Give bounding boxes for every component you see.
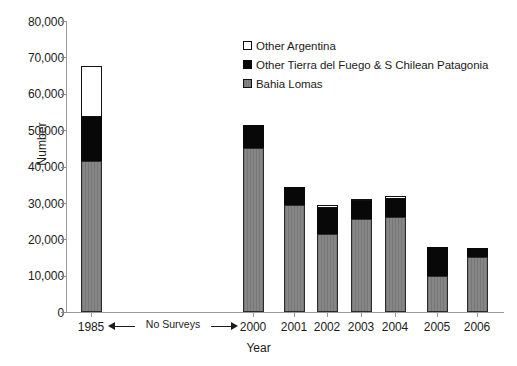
- bar-chart: Number 80,000 70,000 60,000 50,000 40,00…: [0, 0, 517, 366]
- y-tick-label: 20,000: [6, 235, 64, 245]
- bar-segment: [81, 117, 102, 161]
- y-tick-label: 50,000: [6, 126, 64, 136]
- bar-segment: [467, 257, 488, 312]
- x-tick-mark: [477, 313, 478, 317]
- black-square-icon: [243, 60, 252, 69]
- bar-2006: [467, 248, 488, 312]
- bar-segment: [385, 199, 406, 217]
- no-surveys-annotation: No Surveys: [108, 320, 238, 334]
- bar-segment: [243, 148, 264, 312]
- bar-segment: [81, 66, 102, 117]
- bar-segment: [385, 196, 406, 200]
- bar-1985: [81, 66, 102, 312]
- bar-segment: [317, 208, 338, 233]
- x-tick-mark: [327, 313, 328, 317]
- x-tick-mark: [437, 313, 438, 317]
- x-tick-mark: [294, 313, 295, 317]
- bar-segment: [385, 217, 406, 312]
- y-tick-label: 30,000: [6, 199, 64, 209]
- bar-segment: [351, 199, 372, 201]
- x-tick-label: 2000: [233, 320, 273, 334]
- bar-segment: [317, 205, 338, 209]
- x-axis-line: [66, 312, 504, 313]
- bar-2002: [317, 205, 338, 312]
- legend-label: Other Argentina: [256, 40, 336, 52]
- arrow-left-icon: [108, 322, 115, 330]
- bar-2003: [351, 199, 372, 312]
- x-tick-label: 2006: [457, 320, 497, 334]
- legend: Other Argentina Other Tierra del Fuego &…: [243, 36, 488, 93]
- y-axis-ticks: 80,000 70,000 60,000 50,000 40,000 30,00…: [0, 0, 64, 366]
- y-tick-label: 40,000: [6, 162, 64, 172]
- bar-segment: [351, 219, 372, 312]
- x-tick-mark: [361, 313, 362, 317]
- y-tick-label: 0: [6, 308, 64, 318]
- legend-label: Other Tierra del Fuego & S Chilean Patag…: [256, 59, 488, 71]
- bar-segment: [284, 205, 305, 312]
- x-tick-mark: [253, 313, 254, 317]
- bar-2005: [427, 247, 448, 312]
- y-tick-label: 60,000: [6, 89, 64, 99]
- x-tick-label: 2004: [375, 320, 415, 334]
- bar-2001: [284, 187, 305, 312]
- bar-segment: [243, 125, 264, 149]
- bar-segment: [427, 276, 448, 312]
- bar-segment: [351, 201, 372, 219]
- arrow-right-icon: [231, 322, 238, 330]
- bar-2000: [243, 125, 264, 312]
- bar-2004: [385, 196, 406, 312]
- legend-label: Bahia Lomas: [256, 78, 323, 90]
- bar-segment: [81, 161, 102, 312]
- x-tick-label: 1985: [71, 320, 111, 334]
- gray-square-icon: [243, 79, 252, 88]
- x-tick-mark: [395, 313, 396, 317]
- legend-item-other-argentina: Other Argentina: [243, 36, 488, 55]
- bar-segment: [284, 187, 305, 205]
- y-tick-label: 10,000: [6, 271, 64, 281]
- y-tick-label: 70,000: [6, 53, 64, 63]
- annotation-label: No Surveys: [135, 318, 211, 331]
- x-tick-label: 2005: [417, 320, 457, 334]
- bar-segment: [427, 247, 448, 276]
- x-axis-title: Year: [0, 341, 517, 355]
- white-square-icon: [243, 41, 252, 50]
- legend-item-other-tierra-del-fuego: Other Tierra del Fuego & S Chilean Patag…: [243, 55, 488, 74]
- y-tick-label: 80,000: [6, 17, 64, 27]
- bar-segment: [467, 248, 488, 257]
- x-tick-mark: [91, 313, 92, 317]
- bar-segment: [317, 234, 338, 312]
- legend-item-bahia-lomas: Bahia Lomas: [243, 74, 488, 93]
